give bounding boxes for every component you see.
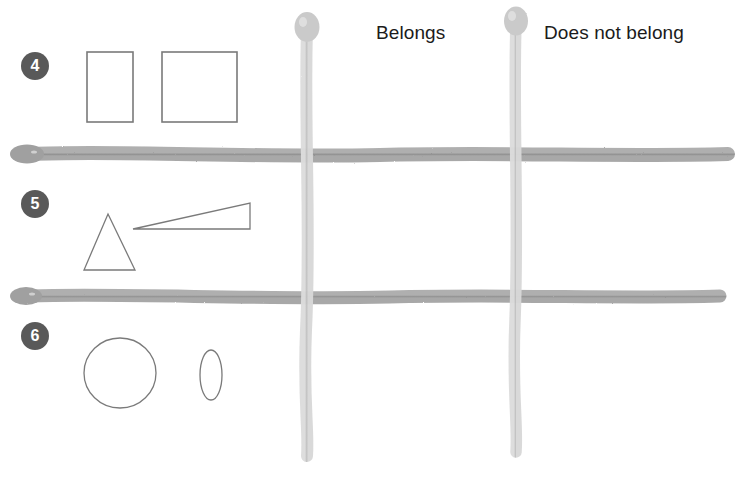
worksheet-page: Belongs Does not belong 4 5 6: [0, 0, 746, 478]
grid-line-vertical-left-bulb-highlight: [299, 17, 307, 27]
grid-line-vertical-left: [305, 30, 308, 456]
faint-scan-artifact-text: [6, 446, 736, 470]
shape-triangle-thin-wedge: [133, 203, 250, 229]
grid-line-vertical-right-bulb: [504, 7, 528, 36]
row-badge-5: 5: [21, 190, 49, 218]
shape-ellipse-narrow: [200, 350, 222, 400]
grid-line-horizontal-top-endcap-highlight: [31, 150, 37, 153]
grid-line-horizontal-bottom-endcap-highlight: [29, 293, 35, 296]
row-badge-6: 6: [21, 322, 49, 350]
grid-line-horizontal-bottom-endcap: [10, 287, 42, 305]
shape-rectangle-portrait: [87, 52, 133, 122]
column-header-does-not-belong: Does not belong: [544, 23, 684, 42]
grid-line-vertical-right-bulb-highlight: [508, 11, 516, 21]
grid-line-horizontal-top: [30, 153, 728, 156]
column-header-belongs: Belongs: [376, 23, 445, 42]
shape-triangle-equilateral: [84, 214, 135, 270]
grid-line-vertical-left-bulb: [295, 12, 320, 42]
grid-line-horizontal-bottom: [28, 295, 720, 298]
row-badge-4: 4: [21, 52, 49, 80]
shape-square: [162, 52, 237, 122]
sorting-grid-canvas: [0, 0, 746, 478]
grid-line-horizontal-top-endcap: [10, 145, 44, 164]
shape-circle: [84, 338, 156, 408]
grid-line-vertical-right: [514, 24, 516, 452]
